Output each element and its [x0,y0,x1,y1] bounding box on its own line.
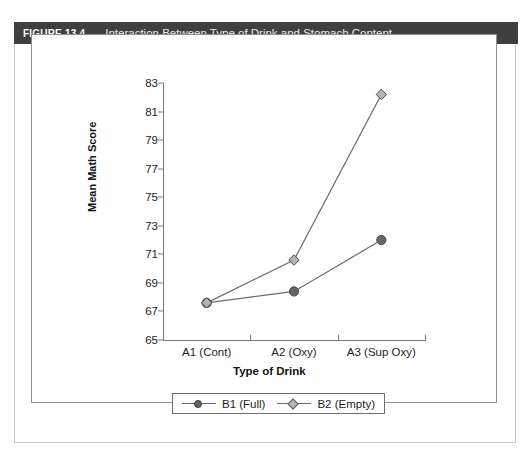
legend-label-b2: B2 (Empty) [317,398,375,410]
legend-item-b1: B1 (Full) [182,398,265,410]
figure-container: FIGURE 13.4 Interaction Between Type of … [14,22,518,445]
data-point-circle [377,235,386,244]
circle-marker-icon [182,398,216,410]
chart-legend: B1 (Full) B2 (Empty) [172,393,385,414]
data-point-diamond [376,89,386,99]
series-plot [14,22,518,445]
legend-item-b2: B2 (Empty) [277,398,375,410]
legend-label-b1: B1 (Full) [222,398,265,410]
data-point-diamond [201,298,211,308]
series-line [207,94,382,302]
diamond-marker-icon [277,398,311,410]
data-point-circle [289,287,298,296]
data-point-diamond [289,255,299,265]
